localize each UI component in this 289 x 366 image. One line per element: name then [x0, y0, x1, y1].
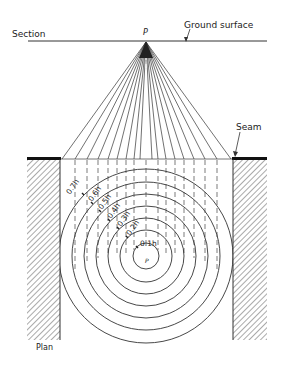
radius-labels: 0.1h 0.2h 0.3h 0.4h 0.5h 0.6h 0.7h [64, 177, 157, 248]
radius-label-0.7h: 0.7h [64, 177, 81, 196]
seam-right [232, 157, 267, 160]
point-p-top-label: P [143, 28, 148, 37]
point-p-center-label: P [145, 257, 149, 264]
section-label: Section [12, 29, 45, 39]
radius-label-0.1h: 0.1h [140, 239, 157, 248]
subsidence-diagram: Section Ground surface P Seam Plan P 0.1… [0, 0, 289, 366]
right-rock-block [233, 160, 267, 340]
plan-label: Plan [36, 343, 53, 352]
seam-left [27, 157, 61, 160]
ground-surface-label: Ground surface [184, 20, 254, 30]
left-rock-block [27, 160, 60, 340]
seam-arrowhead [233, 151, 238, 157]
seam-label: Seam [236, 122, 262, 132]
